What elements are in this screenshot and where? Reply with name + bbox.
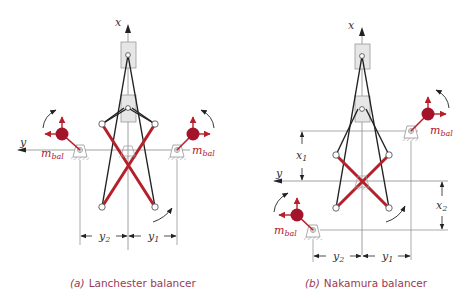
rotation-arrow-icon [436, 90, 449, 108]
dimension-y2-label: y2 [332, 250, 344, 264]
x-axis-label: x [348, 19, 355, 32]
rotation-arrow-icon [201, 110, 214, 128]
dimension-x1-label: x1 [296, 149, 307, 163]
y-axis-label: y [275, 167, 283, 180]
lower-balancer-pivot [304, 225, 322, 262]
rotation-arrow-icon [43, 110, 56, 128]
dimension-y1-label: y1 [381, 250, 393, 264]
dimension-extension-lines [80, 160, 177, 245]
mass-label-left: mbal [41, 147, 64, 161]
mass-label-lower: mbal [274, 224, 297, 238]
dimension-y2-label: y2 [98, 230, 110, 244]
rotation-arrow-icon [274, 193, 288, 212]
mass-label-right: mbal [192, 144, 215, 158]
left-balancer-pivot [71, 145, 89, 160]
x-axis-arrowhead-icon [125, 24, 131, 33]
panel-b-nakamura: x y [273, 19, 453, 289]
dimension-y1-label: y1 [147, 230, 159, 244]
right-balancer-pivot [168, 145, 186, 160]
panel-a-lanchester: x y [17, 16, 215, 289]
connecting-rods [336, 56, 389, 208]
left-balance-mass [43, 110, 80, 150]
y-axis-label: y [19, 136, 27, 149]
mass-label-upper: mbal [430, 124, 453, 138]
dimension-x2-label: x2 [436, 199, 447, 213]
crank-links [336, 155, 389, 208]
caption-a: (a)Lanchester balancer [70, 277, 197, 289]
connecting-rods [102, 55, 155, 207]
upper-balancer-pivot [402, 126, 420, 260]
balancer-diagram: x y [0, 0, 467, 300]
x-axis-arrowhead-icon [359, 27, 365, 36]
x-axis-label: x [115, 16, 122, 29]
caption-b: (b)Nakamura balancer [305, 277, 428, 289]
